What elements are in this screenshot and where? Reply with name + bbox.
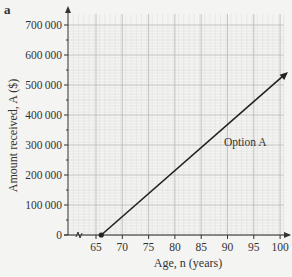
series-label-option-a: Option A <box>224 136 267 148</box>
svg-text:90: 90 <box>222 241 234 253</box>
svg-text:95: 95 <box>248 241 260 253</box>
svg-text:700 000: 700 000 <box>25 19 62 31</box>
svg-text:75: 75 <box>143 241 155 253</box>
svg-text:85: 85 <box>195 241 207 253</box>
svg-text:600 000: 600 000 <box>25 49 62 61</box>
svg-text:65: 65 <box>90 241 102 253</box>
svg-text:500 000: 500 000 <box>25 79 62 91</box>
svg-text:100 000: 100 000 <box>25 199 62 211</box>
svg-text:200 000: 200 000 <box>25 169 62 181</box>
svg-text:400 000: 400 000 <box>25 109 62 121</box>
svg-text:80: 80 <box>169 241 181 253</box>
x-axis-label: Age, n (years) <box>96 256 280 271</box>
svg-text:300 000: 300 000 <box>25 139 62 151</box>
svg-text:100: 100 <box>271 241 289 253</box>
svg-text:70: 70 <box>117 241 129 253</box>
y-axis-label: Amount received, A ($) <box>6 61 21 211</box>
svg-text:0: 0 <box>56 229 62 241</box>
